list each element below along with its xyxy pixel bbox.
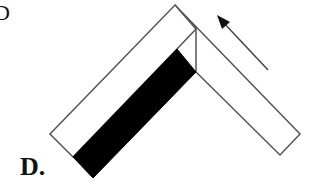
diagram-figure: D D. xyxy=(0,0,310,191)
chevron-diagram xyxy=(0,0,310,191)
option-label: D. xyxy=(20,152,45,182)
